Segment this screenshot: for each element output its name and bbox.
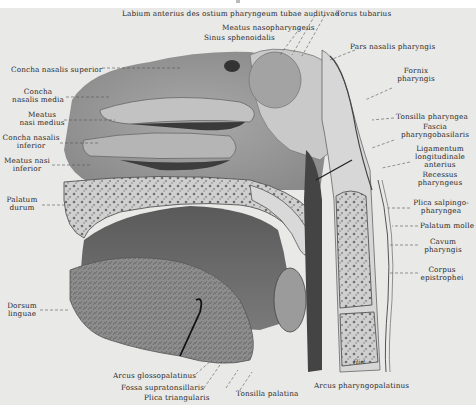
label-plica-salpingo: Plica salpingo- pharyngea xyxy=(410,199,472,215)
label-corpus: Corpus epistrophei xyxy=(414,266,470,282)
label-meatus-inferior: Meatus nasi inferior xyxy=(2,157,52,173)
label-line: pharyngeus xyxy=(410,179,470,187)
label-concha-media: Concha nasalis media xyxy=(8,88,68,104)
label-line: durum xyxy=(2,204,42,212)
label-tonsilla-pharyngea: Tonsilla pharyngea xyxy=(396,113,468,121)
label-line: pharyngea xyxy=(410,207,472,215)
label-line: inferior xyxy=(2,165,52,173)
label-labium-anterius: Labium anterius des ostium pharyngeum tu… xyxy=(122,10,339,18)
label-line: epistrophei xyxy=(414,274,470,282)
label-fornix: Fornix pharyngis xyxy=(386,67,446,83)
label-concha-superior: Concha nasalis superior xyxy=(11,66,102,74)
label-recessus: Recessus pharyngeus xyxy=(410,171,470,187)
label-pars-nasalis: Pars nasalis pharyngis xyxy=(350,43,435,51)
label-line: nasalis media xyxy=(8,96,68,104)
artist-signature: Hirt xyxy=(352,358,366,365)
label-torus-tubarius: Torus tubarius xyxy=(336,10,391,18)
label-line: pharyngis xyxy=(418,246,468,254)
label-line: anterius xyxy=(410,161,470,169)
label-palatum-durum: Palatum durum xyxy=(2,196,42,212)
label-sinus-sphenoidalis: Sinus sphenoidalis xyxy=(204,34,275,42)
label-ligamentum: Ligamentum longitudinale anterius xyxy=(410,145,470,169)
concha-inferior-shape xyxy=(83,133,236,159)
label-line: nasi medius xyxy=(12,119,72,127)
label-line: linguae xyxy=(2,310,42,318)
label-cavum: Cavum pharyngis xyxy=(418,238,468,254)
label-line: inferior xyxy=(1,142,61,150)
label-tonsilla-palatina: Tonsilla palatina xyxy=(236,390,299,398)
corpus-epistrophei-shape xyxy=(336,191,372,308)
label-meatus-nasopharyngeus: Meatus nasopharyngeus xyxy=(222,24,315,32)
label-dorsum-linguae: Dorsum linguae xyxy=(2,302,42,318)
label-concha-inferior: Concha nasalis inferior xyxy=(1,134,61,150)
label-meatus-medius: Meatus nasi medius xyxy=(12,111,72,127)
label-arcus-glosso: Arcus glossopalatinus xyxy=(113,372,196,380)
pharynx-column xyxy=(304,150,322,372)
anatomical-illustration: Hirt xyxy=(0,0,476,412)
label-arcus-pharyngo: Arcus pharyngopalatinus xyxy=(314,382,409,390)
label-plica-triangularis: Plica triangularis xyxy=(144,394,210,402)
tonsilla-palatina-shape xyxy=(274,268,306,332)
label-palatum-molle: Palatum molle xyxy=(420,222,474,230)
label-fossa: Fossa supratonsillaris xyxy=(121,384,204,392)
label-line: pharyngobasilaris xyxy=(400,131,470,139)
label-fascia: Fascia pharyngobasilaris xyxy=(400,123,470,139)
label-line: pharyngis xyxy=(386,75,446,83)
